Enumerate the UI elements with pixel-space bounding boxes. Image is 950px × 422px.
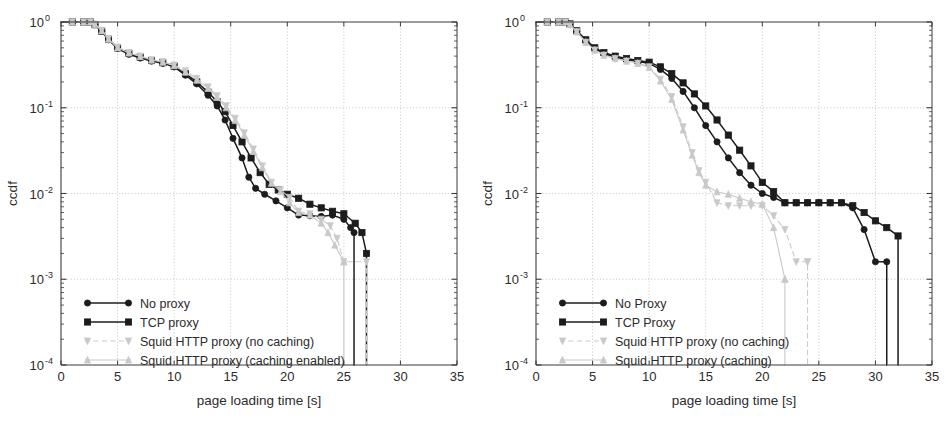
data-marker-square: [363, 250, 369, 256]
x-tick-label: 5: [589, 369, 596, 384]
y-axis-title: ccdf: [480, 181, 495, 206]
y-tick-label-exponent: -2: [45, 185, 53, 195]
chart-svg-right: 0510152025303510010-110-210-310-4page lo…: [475, 0, 950, 422]
y-tick-label-exponent: 0: [520, 13, 525, 23]
data-marker-square: [657, 64, 663, 70]
data-marker-square: [329, 208, 335, 214]
data-marker-square: [895, 233, 901, 239]
legend-label: Squid HTTP proxy (caching enabled): [140, 354, 345, 368]
y-tick-label-exponent: -2: [520, 185, 528, 195]
data-marker-square: [352, 220, 358, 226]
legend-label: No proxy: [140, 297, 191, 311]
data-marker-circle: [273, 198, 279, 204]
data-marker-circle: [246, 174, 252, 180]
data-marker-circle: [222, 117, 228, 123]
x-tick-label: 5: [114, 369, 121, 384]
y-axis-title-group: ccdf: [5, 181, 20, 206]
data-marker-circle: [262, 191, 268, 197]
data-marker-square: [793, 200, 799, 206]
data-marker-square: [804, 200, 810, 206]
legend-label: Squid HTTP proxy (no caching): [140, 335, 314, 349]
data-marker-square: [872, 218, 878, 224]
y-tick-label-exponent: -1: [520, 99, 528, 109]
legend-label: Squid HTTP proxy (caching): [615, 354, 772, 368]
y-tick-label-base: 10: [505, 15, 519, 30]
data-marker-circle: [559, 300, 565, 306]
chart-panel-left: 0510152025303510010-110-210-310-4page lo…: [0, 0, 475, 422]
y-tick-label-base: 10: [30, 101, 44, 116]
data-marker-square: [84, 319, 90, 325]
data-marker-circle: [691, 105, 697, 111]
data-marker-square: [782, 200, 788, 206]
y-tick-label-exponent: -3: [45, 270, 53, 280]
data-marker-square: [669, 71, 675, 77]
x-tick-label: 35: [925, 369, 939, 384]
data-marker-square: [850, 203, 856, 209]
x-tick-label: 30: [868, 369, 882, 384]
y-tick-label-exponent: -4: [520, 356, 528, 366]
data-marker-square: [359, 229, 365, 235]
x-tick-label: 30: [393, 369, 407, 384]
y-tick-label-base: 10: [505, 187, 519, 202]
data-marker-circle: [737, 170, 743, 176]
data-marker-circle: [759, 190, 765, 196]
y-tick-label-base: 10: [505, 272, 519, 287]
data-marker-square: [748, 163, 754, 169]
data-marker-square: [239, 139, 245, 145]
chart-svg-left: 0510152025303510010-110-210-310-4page lo…: [0, 0, 475, 422]
y-tick-label-exponent: -1: [45, 99, 53, 109]
data-marker-circle: [861, 226, 867, 232]
x-tick-label: 0: [532, 369, 539, 384]
y-tick-label-base: 10: [30, 187, 44, 202]
data-marker-circle: [771, 194, 777, 200]
y-tick-label-base: 10: [30, 15, 44, 30]
data-marker-square: [838, 200, 844, 206]
x-axis-title: page loading time [s]: [672, 393, 797, 408]
data-marker-square: [125, 319, 131, 325]
y-tick-label-base: 10: [30, 358, 44, 373]
y-tick-label-exponent: 0: [45, 13, 50, 23]
data-marker-circle: [600, 300, 606, 306]
data-marker-circle: [714, 139, 720, 145]
data-marker-circle: [351, 229, 357, 235]
data-marker-circle: [84, 300, 90, 306]
data-marker-square: [318, 205, 324, 211]
x-tick-label: 15: [698, 369, 712, 384]
data-marker-circle: [253, 185, 259, 191]
legend-label: TCP proxy: [140, 316, 200, 330]
legend-label: Squid HTTP proxy (no caching): [615, 335, 789, 349]
data-marker-circle: [680, 88, 686, 94]
x-tick-label: 20: [755, 369, 769, 384]
chart-panel-right: 0510152025303510010-110-210-310-4page lo…: [475, 0, 950, 422]
data-marker-circle: [884, 259, 890, 265]
data-marker-square: [861, 209, 867, 215]
data-marker-circle: [125, 300, 131, 306]
y-tick-label-exponent: -4: [45, 356, 53, 366]
y-axis-title-group: ccdf: [480, 181, 495, 206]
legend-label: No Proxy: [615, 297, 667, 311]
data-marker-circle: [239, 155, 245, 161]
data-marker-square: [771, 189, 777, 195]
x-axis-title: page loading time [s]: [197, 393, 322, 408]
data-marker-square: [703, 103, 709, 109]
x-tick-label: 20: [280, 369, 294, 384]
data-marker-square: [759, 179, 765, 185]
data-marker-square: [737, 147, 743, 153]
data-marker-square: [725, 132, 731, 138]
y-tick-label-base: 10: [505, 358, 519, 373]
x-tick-label: 10: [642, 369, 656, 384]
x-tick-label: 15: [223, 369, 237, 384]
x-tick-label: 0: [57, 369, 64, 384]
data-marker-square: [307, 201, 313, 207]
x-tick-label: 10: [167, 369, 181, 384]
legend-label: TCP Proxy: [615, 316, 676, 330]
x-tick-label: 25: [812, 369, 826, 384]
data-marker-square: [296, 195, 302, 201]
data-marker-square: [559, 319, 565, 325]
y-tick-label-exponent: -3: [520, 270, 528, 280]
data-marker-circle: [703, 122, 709, 128]
data-marker-square: [248, 155, 254, 161]
y-tick-label-base: 10: [505, 101, 519, 116]
data-marker-square: [816, 200, 822, 206]
data-marker-circle: [872, 259, 878, 265]
